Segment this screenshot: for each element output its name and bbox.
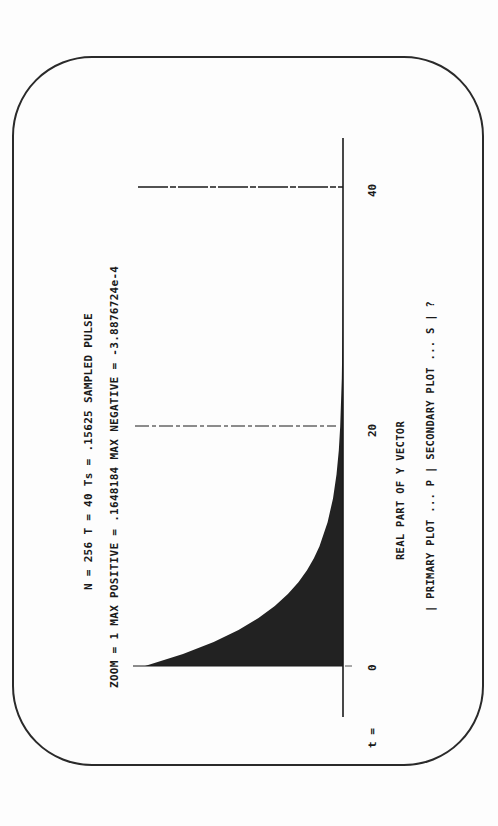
header-line-2: ZOOM = 1 MAX POSITIVE = .1648184 MAX NEG… (108, 266, 121, 688)
tick-label-20: 20 (366, 424, 379, 437)
t-axis-label: t = (366, 728, 379, 748)
tick-label-0: 0 (366, 664, 379, 671)
plot-menu[interactable]: | PRIMARY PLOT ... P | SECONDARY PLOT ..… (424, 301, 436, 612)
plot-caption: REAL PART OF Y VECTOR (394, 421, 406, 560)
tick-label-40: 40 (366, 184, 379, 197)
header-line-1: N = 256 T = 40 Ts = .15625 SAMPLED PULSE (82, 313, 95, 590)
